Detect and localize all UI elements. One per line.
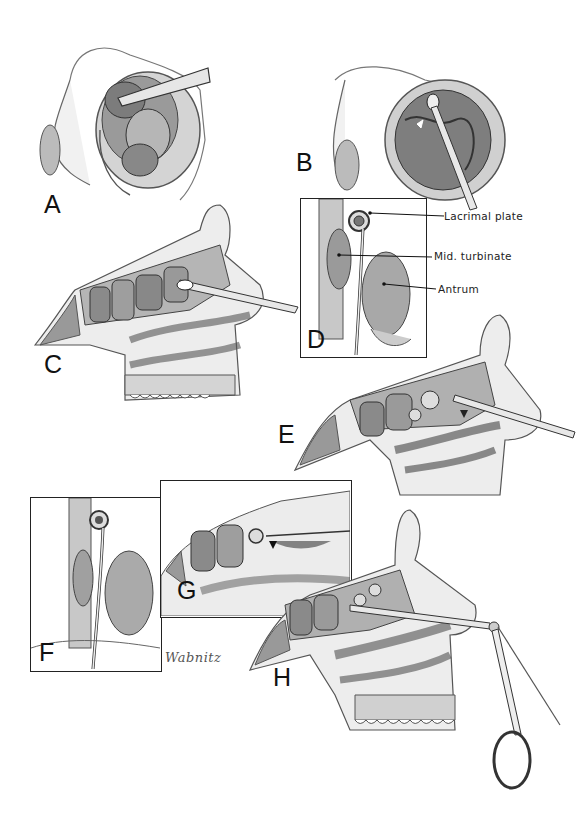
- callout-mid-turbinate: Mid. turbinate: [434, 250, 512, 262]
- panel-a: [30, 20, 210, 200]
- callout-lacrimal-plate: Lacrimal plate: [444, 210, 523, 222]
- panel-b-label: B: [296, 150, 313, 175]
- callout-antrum: Antrum: [438, 283, 479, 295]
- panel-b-illustration: [325, 40, 525, 210]
- panel-f-label: F: [39, 640, 54, 665]
- panel-h-label: H: [273, 665, 291, 690]
- forceps-ring-icon: [494, 732, 530, 788]
- panel-h: [250, 505, 570, 795]
- panel-b: [325, 40, 525, 210]
- panel-e: [290, 300, 580, 500]
- artist-signature: Wabnitz: [165, 650, 221, 665]
- panel-c: [30, 195, 300, 400]
- panel-c-illustration: [30, 195, 300, 400]
- panel-e-label: E: [278, 422, 295, 447]
- panel-f: F: [30, 497, 162, 672]
- panel-a-illustration: [30, 20, 210, 200]
- panel-c-label: C: [44, 352, 62, 377]
- panel-g-label: G: [177, 578, 196, 603]
- panel-h-illustration: [250, 505, 570, 795]
- panel-e-illustration: [290, 300, 580, 500]
